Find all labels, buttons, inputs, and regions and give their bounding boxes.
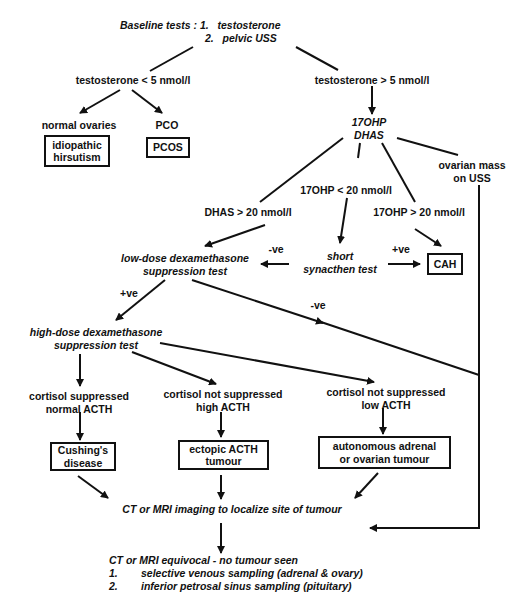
node-line: cortisol not suppressed [163, 388, 282, 401]
cortisol-suppressed-node: cortisol suppressed normal ACTH [29, 390, 129, 415]
pcos-box: PCOS [146, 137, 190, 158]
normal-ovaries-label: normal ovaries [42, 119, 117, 132]
box-line: or ovarian tumour [340, 453, 430, 466]
testosterone-high-label: testosterone > 5 nmol/l [315, 74, 430, 87]
footer-item-number: 2. [109, 580, 141, 593]
ohp-lt20-label: 17OHP < 20 nmol/l [300, 184, 392, 197]
pco-label: PCO [156, 119, 179, 132]
footer-item-text: inferior petrosal sinus sampling (pituit… [141, 580, 352, 592]
node-line: cortisol suppressed [29, 390, 129, 403]
footer-item-number: 1. [109, 567, 141, 580]
baseline-title: Baseline tests : [120, 19, 197, 31]
low-dose-negative-label: -ve [310, 299, 325, 312]
footer-item-1: 1.selective venous sampling (adrenal & o… [109, 567, 363, 580]
box-line: autonomous adrenal [333, 440, 436, 453]
footer-item-text: selective venous sampling (adrenal & ova… [141, 567, 363, 579]
baseline-label: Baseline tests : 1. testosterone [120, 19, 281, 32]
ohp-dhas-node: 17OHP DHAS [352, 116, 386, 141]
ohp-gt20-label: 17OHP > 20 nmol/l [373, 206, 465, 219]
ct-mri-imaging-node: CT or MRI imaging to localize site of tu… [122, 503, 341, 516]
baseline-item-testosterone: 1. testosterone [200, 19, 281, 31]
testosterone-low-label: testosterone < 5 nmol/l [76, 74, 191, 87]
synacthen-positive-label: +ve [392, 243, 410, 256]
high-dose-dex-node: high-dose dexamethasone suppression test [30, 326, 162, 351]
short-synacthen-node: short synacthen test [303, 250, 377, 275]
node-line: short [303, 250, 377, 263]
node-line: 17OHP [352, 116, 386, 129]
footer-title: CT or MRI equivocal - no tumour seen [109, 554, 298, 567]
node-line: normal ACTH [29, 403, 129, 416]
cushings-disease-box: Cushing's disease [50, 442, 116, 471]
autonomous-tumour-box: autonomous adrenal or ovarian tumour [318, 436, 451, 469]
node-line: on USS [438, 172, 505, 185]
cortisol-not-suppressed-high-node: cortisol not suppressed high ACTH [163, 388, 282, 413]
dhas-gt20-label: DHAS > 20 nmol/l [204, 206, 291, 219]
box-line: PCOS [153, 141, 183, 154]
node-line: DHAS [352, 129, 386, 142]
low-dose-dex-node: low-dose dexamethasone suppression test [121, 252, 249, 277]
box-line: hirsutism [53, 151, 100, 164]
box-line: ectopic ACTH [189, 443, 257, 456]
box-line: disease [64, 457, 103, 470]
node-line: cortisol not suppressed [326, 386, 445, 399]
node-line: high ACTH [163, 401, 282, 414]
baseline-item-pelvic-uss: 2. pelvic USS [205, 32, 277, 45]
node-line: high-dose dexamethasone [30, 326, 162, 339]
ovarian-mass-node: ovarian mass on USS [438, 159, 505, 184]
node-line: low-dose dexamethasone [121, 252, 249, 265]
cah-box: CAH [427, 253, 463, 275]
node-line: ovarian mass [438, 159, 505, 172]
box-line: idiopathic [52, 139, 102, 152]
node-line: synacthen test [303, 263, 377, 276]
cortisol-not-suppressed-low-node: cortisol not suppressed low ACTH [326, 386, 445, 411]
footer-item-2: 2.inferior petrosal sinus sampling (pitu… [109, 580, 352, 593]
ectopic-acth-box: ectopic ACTH tumour [178, 440, 269, 470]
node-line: suppression test [30, 339, 162, 352]
node-line: low ACTH [326, 399, 445, 412]
low-dose-positive-label: +ve [120, 287, 138, 300]
idiopathic-hirsutism-box: idiopathic hirsutism [44, 135, 110, 167]
box-line: Cushing's [58, 444, 108, 457]
box-line: tumour [205, 455, 241, 468]
box-line: CAH [434, 258, 457, 271]
node-line: suppression test [121, 265, 249, 278]
synacthen-negative-label: -ve [268, 243, 283, 256]
